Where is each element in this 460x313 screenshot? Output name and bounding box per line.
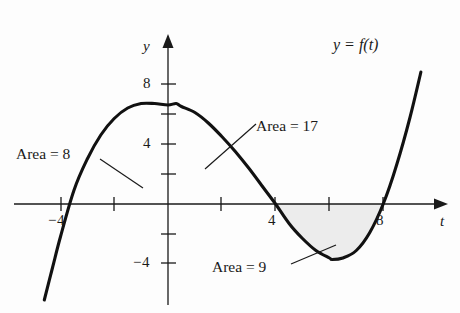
y-tick-label-8: 8 [143,75,151,92]
annotation-area-9: Area = 9 [212,258,266,276]
math-figure: y t 8 4 −4 −4 4 8 y = f(t) Area = 8 Area… [0,0,460,313]
curve-label: y = f(t) [333,36,378,54]
y-tick-label-minus-4: −4 [133,254,150,271]
leader-line-area-17 [205,124,256,169]
x-tick-label-8: 8 [376,212,384,229]
x-axis-arrowhead [434,199,448,210]
y-tick-label-4: 4 [143,135,151,152]
leader-line-area-8 [100,159,143,188]
x-tick-label-minus-4: −4 [48,212,65,229]
shaded-area-region [276,204,384,260]
annotation-area-8: Area = 8 [16,145,70,163]
x-axis-label: t [440,213,444,230]
y-axis-arrowhead [163,34,174,48]
y-axis-label: y [143,38,150,55]
annotation-area-17: Area = 17 [256,117,318,135]
x-tick-label-4: 4 [268,212,276,229]
